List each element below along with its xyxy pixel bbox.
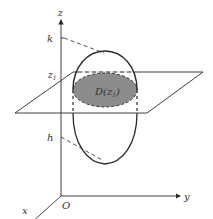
x-axis-line-main	[30, 196, 61, 200]
upper-bound-dashed-line	[64, 38, 104, 53]
x-axis-label: x	[22, 205, 28, 216]
x-axis-visible-main	[31, 196, 61, 200]
slice-level-label: z1	[47, 70, 57, 81]
x-axis-arrowed	[31, 196, 61, 200]
cross-section-label: D(z1)	[94, 86, 120, 98]
y-axis-label: y	[183, 191, 190, 202]
z-axis-label: z	[57, 8, 63, 18]
x-axis-oblique	[31, 196, 61, 200]
x-axis	[31, 196, 61, 200]
x-axis-end	[30, 196, 61, 200]
x-axis-visible-line	[30, 196, 61, 200]
origin-label: O	[62, 200, 70, 211]
x-axis-render	[30, 197, 61, 200]
x-axis-drawn-real	[29, 196, 61, 203]
x-axis-segment	[31, 196, 61, 200]
x-axis-final	[30, 197, 61, 200]
x-axis	[30, 196, 61, 199]
lower-bound-label: h	[47, 132, 53, 143]
x-axis-ray	[31, 196, 61, 200]
x-axis-real-line	[30, 196, 61, 200]
x-axis-arrow-visible	[30, 196, 61, 200]
diagram-canvas: z y x O k h	[0, 0, 213, 219]
x-axis-stroke-line	[30, 196, 61, 200]
x-axis-line-final	[30, 196, 61, 200]
x-axis-visible-drawn	[29, 196, 61, 219]
x-axis-stroke	[30, 197, 61, 200]
ellipsoid-lower-arc	[73, 113, 137, 164]
cross-section-main: D(z	[94, 86, 113, 97]
upper-bound-label: k	[47, 33, 53, 44]
x-axis-path	[30, 197, 61, 200]
cross-section-close: )	[115, 86, 120, 97]
x-axis-path-line	[31, 196, 61, 200]
x-axis-line	[30, 196, 61, 200]
x-axis	[30, 196, 61, 202]
slice-level-sub: 1	[53, 74, 57, 81]
